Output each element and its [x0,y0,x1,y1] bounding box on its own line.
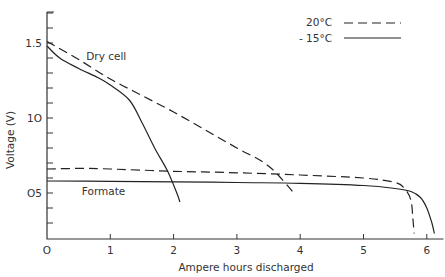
data-curves [47,42,434,234]
y-tick-label: 1.5 [25,37,42,49]
x-axis-label: Ampere hours discharged [178,261,313,273]
annotation-formate: Formate [82,185,125,197]
discharge-chart: O51O1.5O123456 Dry cell Formate 20°C - 1… [0,0,445,277]
series-dry-cell-20-c [47,42,294,194]
x-tick-label: 6 [423,244,430,256]
x-tick-label: 5 [360,244,367,256]
y-tick-label: 1O [27,112,42,124]
x-tick-label: 3 [234,244,241,256]
axes [47,12,443,239]
x-tick-label: 1 [107,244,114,256]
series-formate-20-c [47,168,414,233]
series-dry-cell-15-c [47,46,180,202]
y-axis-label: Voltage (V) [4,111,16,169]
x-tick-label: O [43,244,51,256]
x-tick-label: 4 [297,244,304,256]
legend-label-minus15c: - 15°C [299,32,332,44]
legend: 20°C - 15°C [299,16,401,44]
annotation-dry-cell: Dry cell [86,50,126,62]
axis-lines [47,12,443,239]
x-tick-label: 2 [170,244,177,256]
legend-label-20c: 20°C [306,16,332,28]
y-tick-label: O5 [27,187,42,199]
